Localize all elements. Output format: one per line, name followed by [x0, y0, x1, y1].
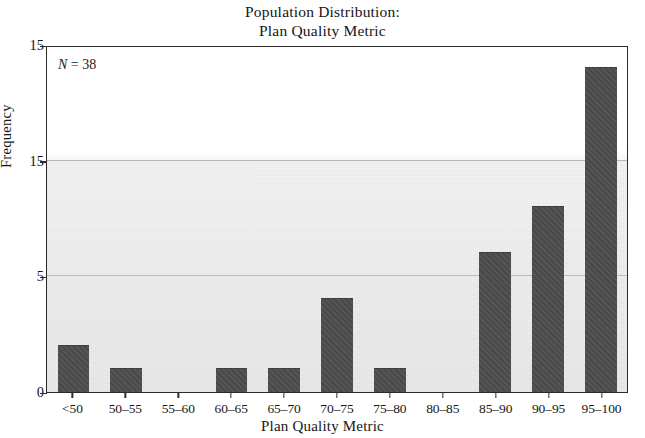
bar-slot: [100, 47, 153, 392]
y-axis-title: Frequency: [0, 48, 15, 168]
bar[interactable]: [268, 368, 300, 392]
bar-slot: [152, 47, 205, 392]
bar[interactable]: [110, 368, 142, 392]
bar[interactable]: [58, 345, 90, 392]
bar-slot: [47, 47, 100, 392]
chart-title-line-1: Population Distribution:: [0, 2, 645, 21]
chart-title: Population Distribution: Plan Quality Me…: [0, 2, 645, 40]
plot-area: [46, 46, 628, 393]
bar[interactable]: [479, 252, 511, 392]
bar-series: [47, 47, 627, 392]
y-axis-tick-label: 5: [0, 269, 44, 284]
bar-slot: [522, 47, 575, 392]
sample-size-symbol: N: [58, 57, 67, 72]
bar[interactable]: [532, 206, 564, 392]
bar[interactable]: [216, 368, 248, 392]
bar-slot: [416, 47, 469, 392]
chart-figure: Population Distribution: Plan Quality Me…: [0, 0, 645, 438]
bar-slot: [205, 47, 258, 392]
bar-slot: [258, 47, 311, 392]
bar-slot: [363, 47, 416, 392]
sample-size-value: = 38: [67, 57, 96, 72]
sample-size-annotation: N = 38: [58, 57, 96, 73]
x-axis-title: Plan Quality Metric: [0, 418, 645, 435]
y-axis-tick-label: 0: [0, 385, 44, 400]
y-axis-tick-label: 15: [0, 154, 44, 169]
y-axis-tick-label: 15: [0, 38, 44, 53]
chart-title-line-2: Plan Quality Metric: [0, 21, 645, 40]
bar[interactable]: [585, 67, 617, 392]
bar-slot: [574, 47, 627, 392]
bar[interactable]: [321, 298, 353, 392]
bar-slot: [469, 47, 522, 392]
bar[interactable]: [374, 368, 406, 392]
bar-slot: [311, 47, 364, 392]
